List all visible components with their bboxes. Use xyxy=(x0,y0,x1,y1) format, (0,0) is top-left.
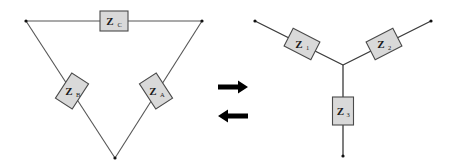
impedance-label: Z xyxy=(65,85,72,97)
impedance-z3: Z 3 xyxy=(333,97,354,125)
impedance-subscript: 3 xyxy=(347,111,350,118)
delta-node-top-right xyxy=(200,19,203,22)
impedance-z1: Z 1 xyxy=(284,28,320,59)
delta-node-bottom xyxy=(113,156,116,159)
impedance-label: Z xyxy=(106,15,113,27)
impedance-label: Z xyxy=(295,38,302,50)
impedance-zb: Z B xyxy=(55,73,89,110)
impedance-subscript: 2 xyxy=(388,44,391,51)
arrow-right-icon xyxy=(218,81,248,94)
delta-node-top-left xyxy=(24,19,27,22)
impedance-subscript: A xyxy=(160,91,165,98)
impedance-za: Z A xyxy=(139,72,173,109)
transformation-arrows xyxy=(218,81,248,123)
impedance-label: Z xyxy=(337,105,344,117)
impedance-subscript: 1 xyxy=(306,44,309,51)
impedance-label: Z xyxy=(149,85,156,97)
impedance-subscript: B xyxy=(76,91,81,98)
impedance-subscript: C xyxy=(118,21,122,28)
impedance-label: Z xyxy=(377,38,384,50)
wye-node-right xyxy=(429,19,432,22)
wye-node-bottom xyxy=(341,154,344,157)
impedance-box xyxy=(100,11,128,31)
wye-node-left xyxy=(253,19,256,22)
impedance-z2: Z 2 xyxy=(366,28,402,59)
wye-network: Z 1 Z 2 Z 3 xyxy=(253,19,432,157)
arrow-left-icon xyxy=(218,110,248,123)
delta-network: Z C Z B Z A xyxy=(24,11,203,160)
delta-wye-diagram: Z C Z B Z A xyxy=(0,0,450,168)
impedance-zc: Z C xyxy=(100,11,128,31)
